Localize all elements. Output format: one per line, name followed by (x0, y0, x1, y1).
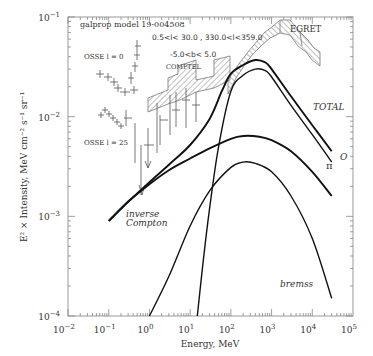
b-range-label: -5.0<b< 5.0 (170, 50, 217, 59)
axis-ticks (68, 17, 353, 316)
tick-label: 10−1 (38, 11, 60, 23)
total-label: TOTAL (313, 102, 344, 112)
osse-l0-data (96, 40, 141, 96)
tick-label: 10−1 (94, 323, 116, 335)
tick-label: 10−3 (38, 210, 60, 222)
tick-label: 10−4 (38, 310, 60, 322)
model-label: galprop model 19-004508 (80, 20, 185, 29)
plot-frame (68, 17, 353, 316)
tick-label: 100 (137, 323, 153, 335)
y-tick-labels: 10−110−210−310−4 (38, 11, 60, 322)
chart-svg: galprop model 19-004508 0.5<l< 30.0 , 33… (0, 0, 373, 356)
tick-label: 102 (219, 323, 235, 335)
tick-label: 103 (260, 323, 276, 335)
x-axis-label: Energy, MeV (181, 339, 240, 349)
bremss-label: bremss (280, 279, 314, 289)
tick-label: 10−2 (38, 111, 60, 123)
x-tick-labels: 10−210−1100101102103104105 (53, 323, 357, 335)
tick-label: 101 (178, 323, 194, 335)
pi0-label: π (326, 160, 333, 171)
egret-label: EGRET (290, 24, 322, 34)
chart-figure: galprop model 19-004508 0.5<l< 30.0 , 33… (0, 0, 373, 356)
y-axis-label: E² × Intensity, MeV cm⁻² s⁻¹ sr⁻¹ (19, 92, 29, 242)
tick-label: 104 (300, 323, 316, 335)
tick-label: 10−2 (53, 323, 75, 335)
tick-label: 105 (341, 323, 357, 335)
comptel-label: COMPTEL (166, 63, 201, 71)
osse-l25-data (98, 107, 154, 195)
bremss-curve (149, 162, 331, 316)
pi0-label-sup: O (340, 152, 348, 162)
osse-l0-label: OSSE l = 0 (84, 53, 124, 61)
ic-label-2: Compton (126, 218, 168, 228)
l-range-label: 0.5<l< 30.0 , 330.0<l<359.0 (152, 33, 263, 42)
osse-l25-label: OSSE l = 25 (84, 139, 128, 147)
